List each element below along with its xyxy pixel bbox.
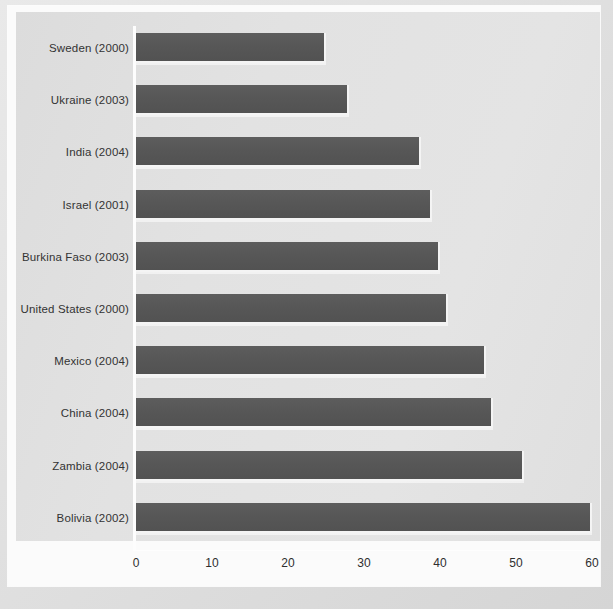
bar: [136, 190, 432, 220]
bar-fill: [136, 294, 448, 324]
x-tick-label: 60: [585, 556, 598, 570]
category-label: Bolivia (2002): [57, 512, 129, 524]
x-tick-label: 50: [509, 556, 522, 570]
bar: [136, 33, 326, 63]
x-tick-label: 0: [133, 556, 140, 570]
chart-figure: Sweden (2000)Ukraine (2003)India (2004)I…: [0, 0, 613, 609]
bar-fill: [136, 85, 349, 115]
bar-fill: [136, 190, 432, 220]
bar: [136, 398, 493, 428]
category-label: United States (2000): [21, 303, 129, 315]
category-label: Sweden (2000): [49, 42, 129, 54]
category-label: Ukraine (2003): [51, 94, 129, 106]
bar-fill: [136, 242, 440, 272]
bar: [136, 503, 592, 533]
plot-area: Sweden (2000)Ukraine (2003)India (2004)I…: [0, 0, 613, 609]
category-label: Burkina Faso (2003): [22, 251, 129, 263]
bar: [136, 242, 440, 272]
bar: [136, 451, 524, 481]
bar: [136, 294, 448, 324]
bar-fill: [136, 346, 486, 376]
bar: [136, 85, 349, 115]
category-label: Israel (2001): [62, 199, 129, 211]
bar-fill: [136, 137, 421, 167]
x-tick-label: 20: [281, 556, 294, 570]
bar: [136, 137, 421, 167]
x-axis-tick-labels: 0102030405060: [0, 556, 613, 574]
category-label: China (2004): [61, 407, 129, 419]
category-label: India (2004): [66, 146, 129, 158]
x-axis-line: [133, 550, 595, 551]
x-tick-label: 40: [433, 556, 446, 570]
bar-fill: [136, 33, 326, 63]
category-label: Mexico (2004): [54, 355, 129, 367]
bar-fill: [136, 398, 493, 428]
category-label: Zambia (2004): [52, 460, 129, 472]
x-tick-label: 30: [357, 556, 370, 570]
bar: [136, 346, 486, 376]
x-tick-label: 10: [205, 556, 218, 570]
bar-fill: [136, 451, 524, 481]
bar-fill: [136, 503, 592, 533]
